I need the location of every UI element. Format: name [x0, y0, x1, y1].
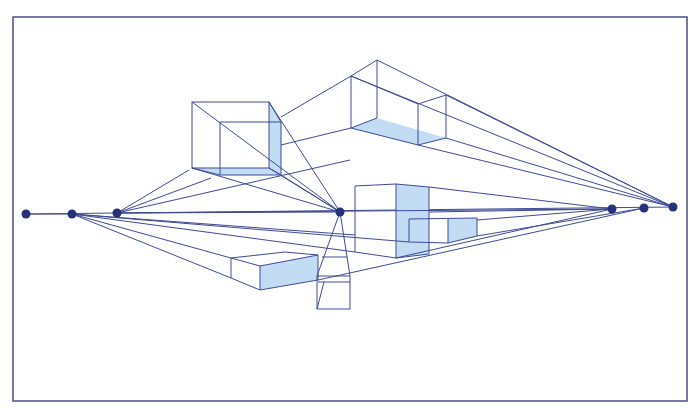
cube-upper-left — [192, 102, 281, 175]
vanishing-point — [608, 205, 617, 214]
construction-lines — [26, 60, 673, 280]
tapered-column-below-center — [317, 257, 350, 309]
vanishing-point — [669, 203, 678, 212]
vanishing-point — [640, 204, 649, 213]
perspective-diagram — [0, 0, 697, 410]
shaded-faces — [192, 102, 477, 290]
vanishing-point — [68, 210, 77, 219]
vanishing-point — [336, 208, 345, 217]
vanishing-point — [113, 209, 122, 218]
perspective-drawing-canvas — [0, 0, 697, 410]
vanishing-point — [22, 210, 31, 219]
